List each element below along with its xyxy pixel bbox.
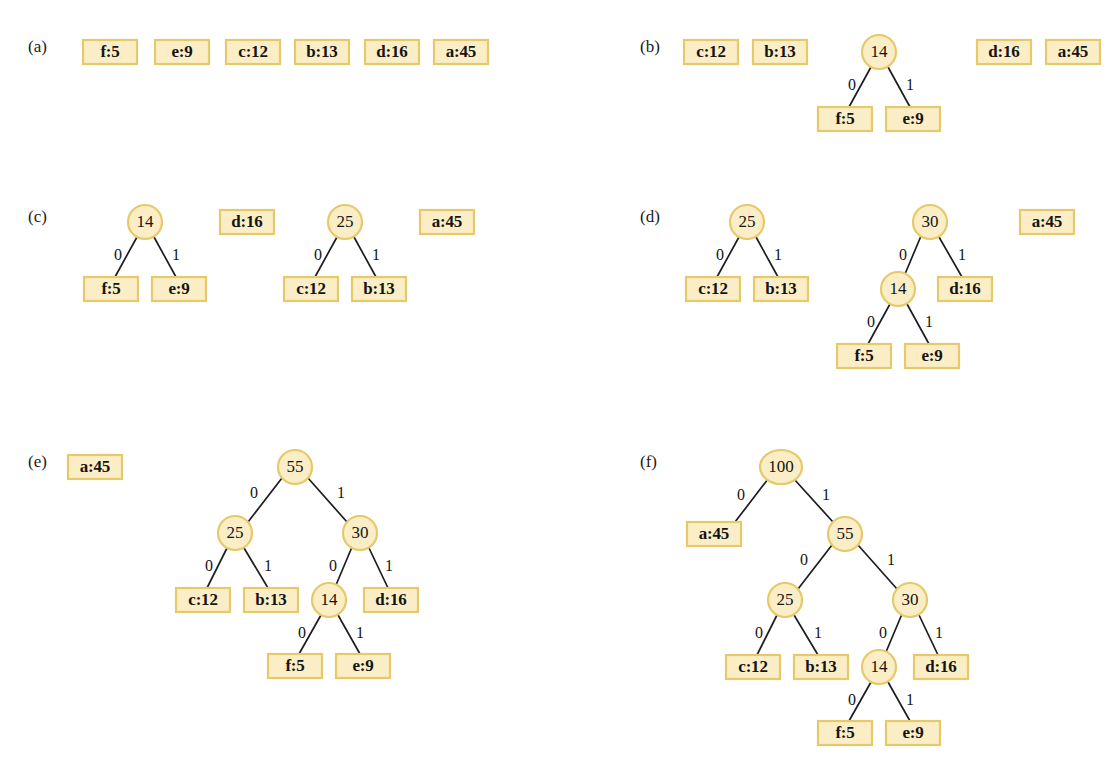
huffman-figure: (a)f:5e:9c:12b:13d:16a:45(b)01c:12b:13d:… [0, 0, 1106, 779]
e-leaf-f5-label: f:5 [285, 656, 304, 675]
b-leaf-c12-label: c:12 [696, 42, 725, 61]
d-edge-14-e9-label: 1 [925, 313, 933, 330]
c-edge-14-f5-label: 0 [114, 246, 122, 263]
a-leaf-a45-label: a:45 [446, 42, 476, 61]
f-leaf-e9-label: e:9 [902, 723, 923, 742]
a-leaf-f5-label: f:5 [100, 42, 119, 61]
d-edge-30-14 [905, 236, 921, 274]
c-node-14-label: 14 [137, 212, 155, 231]
e-edge-14-e9-label: 1 [356, 624, 364, 641]
f-edge-30-d16-label: 1 [935, 624, 943, 641]
f-edge-55-30-label: 1 [887, 551, 895, 568]
f-leaf-a45-label: a:45 [699, 524, 729, 543]
panel-f: (f)0101010101a:45c:12b:13d:16f:5e:910055… [640, 450, 968, 745]
e-edge-55-25-label: 0 [250, 484, 258, 501]
f-node-55-label: 55 [837, 524, 854, 543]
f-edge-30-14-label: 0 [879, 624, 887, 641]
e-leaf-a45-label: a:45 [80, 457, 110, 476]
d-node-30-label: 30 [922, 212, 939, 231]
d-leaf-c12-label: c:12 [698, 279, 727, 298]
panel-label-e: (e) [28, 452, 47, 471]
a-leaf-b13-label: b:13 [306, 42, 337, 61]
c-leaf-c12-label: c:12 [296, 279, 325, 298]
e-edge-55-30-label: 1 [337, 484, 345, 501]
b-edge-14-f5-label: 0 [848, 76, 856, 93]
e-leaf-c12-label: c:12 [188, 590, 217, 609]
b-leaf-b13-label: b:13 [764, 42, 795, 61]
c-node-25-label: 25 [337, 212, 354, 231]
panel-label-d: (d) [640, 207, 660, 226]
e-edge-25-b13-label: 1 [264, 557, 272, 574]
a-leaf-d16-label: d:16 [376, 42, 407, 61]
panel-label-b: (b) [640, 37, 660, 56]
f-leaf-c12-label: c:12 [738, 657, 767, 676]
f-leaf-b13-label: b:13 [805, 657, 836, 676]
c-leaf-b13-label: b:13 [363, 279, 394, 298]
d-edge-30-d16-label: 1 [958, 246, 966, 263]
b-leaf-f5-label: f:5 [835, 109, 854, 128]
panel-label-f: (f) [640, 452, 657, 471]
f-node-100-label: 100 [768, 457, 794, 476]
d-node-25-label: 25 [739, 212, 756, 231]
panel-a: (a)f:5e:9c:12b:13d:16a:45 [28, 37, 488, 64]
panel-label-c: (c) [28, 207, 47, 226]
a-leaf-c12-label: c:12 [238, 42, 267, 61]
d-node-14-label: 14 [890, 279, 908, 298]
d-leaf-f5-label: f:5 [854, 346, 873, 365]
e-leaf-d16-label: d:16 [375, 590, 406, 609]
d-edge-25-b13-label: 1 [774, 246, 782, 263]
c-leaf-a45-label: a:45 [432, 212, 462, 231]
f-edge-25-c12-label: 0 [755, 624, 763, 641]
b-leaf-d16-label: d:16 [988, 42, 1019, 61]
panel-e: (e)01010101a:45c:12b:13d:16f:5e:95525301… [28, 450, 418, 678]
d-edge-14-f5-label: 0 [867, 313, 875, 330]
e-edge-30-14 [336, 547, 352, 585]
c-leaf-f5-label: f:5 [101, 279, 120, 298]
f-edge-100-a45-label: 0 [737, 486, 745, 503]
e-edge-25-c12-label: 0 [205, 557, 213, 574]
b-node-14-label: 14 [871, 42, 889, 61]
b-edge-14-e9-label: 1 [906, 76, 914, 93]
a-leaf-e9-label: e:9 [171, 42, 192, 61]
f-node-25-label: 25 [777, 590, 794, 609]
d-leaf-d16-label: d:16 [949, 279, 980, 298]
f-edge-30-14 [886, 614, 902, 652]
panel-c: (c)0101d:16a:45f:5e:9c:12b:131425 [28, 205, 474, 301]
f-edge-100-55-label: 1 [822, 486, 830, 503]
e-leaf-b13-label: b:13 [255, 590, 286, 609]
f-leaf-d16-label: d:16 [925, 657, 956, 676]
b-leaf-a45-label: a:45 [1058, 42, 1088, 61]
d-leaf-e9-label: e:9 [921, 346, 942, 365]
f-edge-25-b13-label: 1 [814, 624, 822, 641]
c-leaf-d16-label: d:16 [231, 212, 262, 231]
d-edge-30-14-label: 0 [899, 246, 907, 263]
e-node-30-label: 30 [352, 523, 369, 542]
e-leaf-e9-label: e:9 [352, 656, 373, 675]
c-edge-14-e9-label: 1 [172, 246, 180, 263]
f-leaf-f5-label: f:5 [835, 723, 854, 742]
e-node-25-label: 25 [227, 523, 244, 542]
panel-label-a: (a) [28, 37, 47, 56]
c-edge-25-b13-label: 1 [372, 246, 380, 263]
d-leaf-a45-label: a:45 [1032, 212, 1062, 231]
c-leaf-e9-label: e:9 [168, 279, 189, 298]
f-node-30-label: 30 [902, 590, 919, 609]
e-edge-14-f5-label: 0 [298, 624, 306, 641]
d-edge-25-c12-label: 0 [716, 246, 724, 263]
e-node-55-label: 55 [287, 457, 304, 476]
d-leaf-b13-label: b:13 [765, 279, 796, 298]
f-edge-55-25-label: 0 [800, 551, 808, 568]
f-edge-14-e9-label: 1 [906, 691, 914, 708]
panel-b: (b)01c:12b:13d:16a:45f:5e:914 [640, 35, 1100, 131]
b-leaf-e9-label: e:9 [902, 109, 923, 128]
e-node-14-label: 14 [321, 590, 339, 609]
e-edge-30-14-label: 0 [329, 557, 337, 574]
f-node-14-label: 14 [871, 657, 889, 676]
panel-d: (d)010101a:45c:12b:13d:16f:5e:9253014 [640, 205, 1074, 368]
e-edge-30-d16-label: 1 [385, 557, 393, 574]
c-edge-25-c12-label: 0 [314, 246, 322, 263]
f-edge-14-f5-label: 0 [848, 691, 856, 708]
